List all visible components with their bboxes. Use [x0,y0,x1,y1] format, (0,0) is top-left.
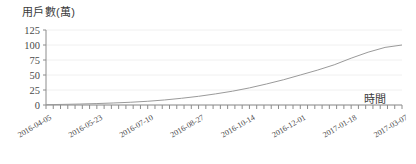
x-axis-ticks: 2016-04-052016-05-232016-07-102016-08-27… [16,105,409,139]
x-tick-label: 2016-10-14 [220,113,257,139]
gridlines [46,30,402,105]
x-tick-label: 2016-08-27 [169,113,206,139]
x-tick-label: 2016-05-23 [67,113,104,139]
x-tick-label: 2017-01-18 [321,113,358,139]
y-tick-label: 25 [30,85,41,96]
x-tick-label: 2016-04-05 [16,113,53,139]
y-tick-label: 125 [24,25,40,36]
y-tick-label: 75 [30,55,41,66]
chart-canvas: 0255075100125 2016-04-052016-05-232016-0… [0,0,416,164]
line-chart: 用戶數(萬) 時間 0255075100125 2016-04-052016-0… [0,0,416,164]
y-axis-ticks: 0255075100125 [24,25,46,111]
y-tick-label: 50 [30,70,41,81]
x-tick-label: 2017-03-07 [372,113,409,139]
y-tick-label: 100 [24,40,40,51]
y-tick-label: 0 [35,100,40,111]
x-tick-label: 2016-12-01 [270,113,307,139]
x-tick-label: 2016-07-10 [118,113,155,139]
